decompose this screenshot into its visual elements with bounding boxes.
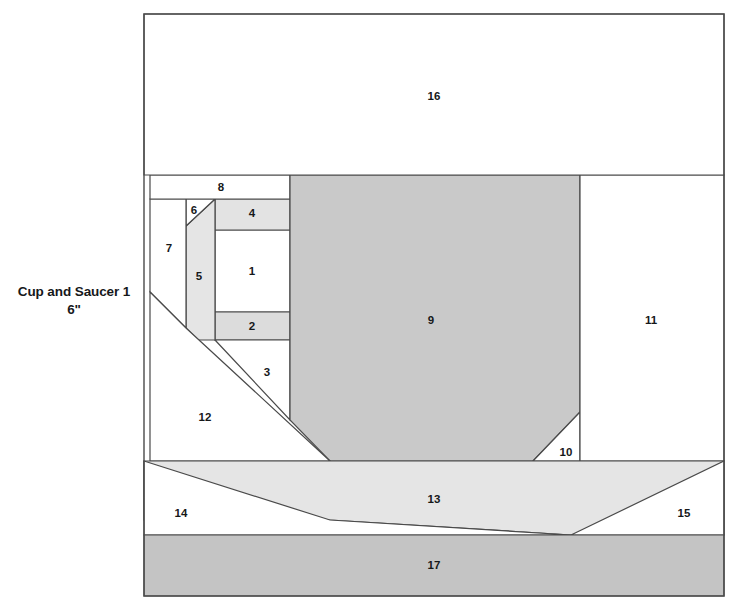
piece-number-9: 9 [428, 314, 434, 326]
pattern-name: Cup and Saucer 1 [8, 283, 140, 301]
piece-number-17: 17 [428, 559, 441, 571]
piece-number-14: 14 [175, 507, 188, 519]
piece-number-5: 5 [196, 270, 203, 282]
piece-number-11: 11 [645, 314, 658, 326]
piece-number-7: 7 [166, 242, 172, 254]
piece-number-15: 15 [678, 507, 691, 519]
piece-number-8: 8 [218, 181, 225, 193]
quilt-piece-9 [290, 175, 580, 461]
piece-number-16: 16 [428, 90, 441, 102]
piece-number-2: 2 [249, 320, 255, 332]
piece-number-10: 10 [560, 446, 573, 458]
piece-number-4: 4 [249, 207, 256, 219]
quilt-block-diagram: Cup and Saucer 1 6" 12345678910111213141… [0, 0, 742, 612]
piece-number-3: 3 [264, 366, 270, 378]
pattern-size: 6" [8, 301, 140, 319]
pattern-label: Cup and Saucer 1 6" [8, 283, 140, 319]
piece-number-1: 1 [249, 265, 256, 277]
piece-number-12: 12 [199, 411, 212, 423]
piece-number-6: 6 [191, 204, 197, 216]
piece-number-13: 13 [428, 493, 441, 505]
